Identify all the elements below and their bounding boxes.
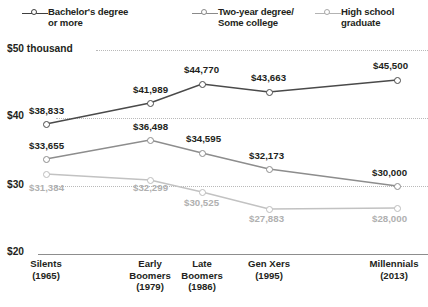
xtick-silents-year: (1965) bbox=[32, 270, 60, 281]
value-label-bachelors-gen-xers: $43,663 bbox=[251, 72, 286, 83]
xtick-gen-xers-year: (1995) bbox=[255, 270, 283, 281]
plot-area: $50 thousand $40 $30 $20 $38,833 $41,989… bbox=[0, 0, 428, 307]
value-label-bachelors-millennials: $45,500 bbox=[373, 60, 408, 71]
line-bachelors bbox=[46, 80, 397, 124]
value-label-high-school-late-boomers: $30,525 bbox=[184, 197, 219, 208]
value-label-two-year-millennials: $30,000 bbox=[372, 167, 407, 178]
xtick-late-boomers-year: (1986) bbox=[188, 281, 216, 292]
value-label-two-year-gen-xers: $32,173 bbox=[249, 150, 284, 161]
value-label-two-year-silents: $33,655 bbox=[29, 140, 64, 151]
value-label-two-year-early-boomers: $36,498 bbox=[133, 121, 168, 132]
data-point-high-school-gen-xers bbox=[266, 206, 273, 213]
value-label-bachelors-early-boomers: $41,989 bbox=[133, 84, 168, 95]
data-point-bachelors-millennials bbox=[394, 77, 401, 84]
xtick-label-late-boomers: Late Boomers (1986) bbox=[171, 258, 233, 293]
xtick-early-boomers-name: Early bbox=[138, 258, 161, 269]
xtick-millennials-name: Millennials bbox=[369, 258, 418, 269]
value-label-high-school-millennials: $28,000 bbox=[372, 213, 407, 224]
line-two-year bbox=[46, 140, 397, 186]
value-label-high-school-silents: $31,384 bbox=[29, 182, 64, 193]
data-point-high-school-silents bbox=[43, 171, 50, 178]
data-point-high-school-late-boomers bbox=[199, 189, 206, 196]
xtick-label-silents: Silents (1965) bbox=[16, 258, 76, 281]
data-point-two-year-early-boomers bbox=[147, 137, 154, 144]
value-label-bachelors-late-boomers: $44,770 bbox=[184, 64, 219, 75]
xtick-millennials-year: (2013) bbox=[380, 270, 408, 281]
xtick-silents-name: Silents bbox=[30, 258, 61, 269]
xtick-early-boomers-year: (1979) bbox=[136, 281, 164, 292]
xtick-early-boomers-name2: Boomers bbox=[129, 270, 171, 281]
xtick-late-boomers-name2: Boomers bbox=[181, 270, 223, 281]
chart-container: Bachelor's degreeor more Two-year degree… bbox=[0, 0, 428, 307]
data-point-two-year-late-boomers bbox=[199, 150, 206, 157]
value-label-two-year-late-boomers: $34,595 bbox=[186, 133, 221, 144]
data-point-two-year-silents bbox=[43, 156, 50, 163]
data-point-two-year-millennials bbox=[394, 183, 401, 190]
xtick-label-millennials: Millennials (2013) bbox=[360, 258, 428, 281]
data-point-two-year-gen-xers bbox=[266, 166, 273, 173]
xtick-late-boomers-name: Late bbox=[192, 258, 212, 269]
xtick-gen-xers-name: Gen Xers bbox=[248, 258, 290, 269]
data-point-bachelors-gen-xers bbox=[266, 89, 273, 96]
data-point-bachelors-late-boomers bbox=[199, 81, 206, 88]
data-point-bachelors-early-boomers bbox=[147, 100, 154, 107]
value-label-high-school-early-boomers: $32,299 bbox=[133, 182, 168, 193]
value-label-high-school-gen-xers: $27,883 bbox=[249, 213, 284, 224]
data-point-high-school-millennials bbox=[394, 205, 401, 212]
value-label-bachelors-silents: $38,833 bbox=[29, 105, 64, 116]
data-point-bachelors-silents bbox=[43, 121, 50, 128]
xtick-label-gen-xers: Gen Xers (1995) bbox=[238, 258, 300, 281]
